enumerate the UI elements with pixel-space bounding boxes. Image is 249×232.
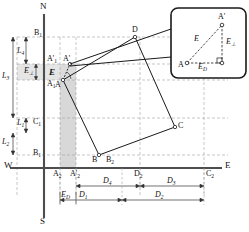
dimension-extension-lines [60, 168, 204, 205]
point-marker-C [173, 125, 176, 128]
dim-D4-label: D4 [103, 177, 112, 185]
dim-L4-label: L4 [17, 47, 24, 55]
inset-label-E-total: E [194, 35, 199, 43]
vertex-label-A-prime: A' [63, 55, 70, 63]
projection-label-C2: C2 [206, 170, 214, 178]
point-marker-D [133, 35, 136, 38]
projection-label-B1-bottom: B1 [33, 149, 41, 157]
vector-label-E-at-A: E [49, 68, 55, 77]
projection-label-A1-prime: A'1 [47, 55, 57, 63]
dimension-label-E-perp: E⊥ [24, 67, 34, 75]
inset-label-A: A [178, 61, 184, 69]
dim-D1-label: D1 [79, 191, 88, 199]
compass-label-south: S [40, 217, 45, 226]
inset-label-E-perp: E⊥ [226, 38, 236, 46]
dim-ED-label: ED [61, 191, 70, 199]
projection-label-D2: D2 [134, 170, 143, 178]
projection-label-B1-top: B1 [34, 29, 42, 37]
projection-label-C1: C1 [33, 118, 41, 126]
projection-label-B2: B2 [106, 156, 114, 164]
inset-leader-lines [70, 29, 171, 66]
projection-label-A2-prime: A'2 [70, 170, 80, 178]
inset-label-A-prime: A' [218, 13, 225, 21]
dim-D3-label: D3 [167, 177, 176, 185]
inset-label-E-D: ED [198, 63, 207, 71]
projection-label-A1: A1 [47, 80, 56, 88]
point-marker-B [97, 153, 100, 156]
figure-canvas: N S W E A A' D C B E B1 A'1 A1 E⊥ C1 B1 … [0, 0, 249, 232]
dim-D2-label: D2 [155, 191, 164, 199]
projection-label-A2: A2 [53, 170, 62, 178]
vertex-label-D: D [132, 26, 138, 34]
dim-L3-label: L3 [2, 72, 9, 80]
vertex-label-B: B [92, 156, 97, 164]
compass-label-north: N [40, 2, 47, 11]
vertex-label-C: C [178, 122, 183, 130]
compass-label-east: E [225, 161, 231, 170]
point-marker-A [61, 78, 64, 81]
building-footprint [63, 37, 175, 155]
dim-L1-label: L1 [17, 119, 24, 127]
compass-label-west: W [4, 161, 13, 170]
dim-L2-label: L2 [2, 138, 9, 146]
